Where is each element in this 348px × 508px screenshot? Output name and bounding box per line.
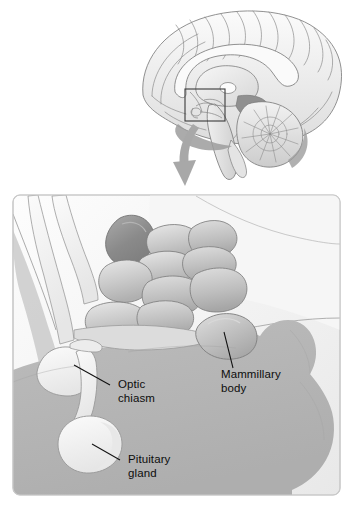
magnification-arrow-head (173, 160, 196, 186)
label-pituitary-gland-line1: Pituitary (128, 453, 171, 465)
label-pituitary-gland-line2: gland (128, 467, 157, 479)
label-mammillary-body-line1: Mammillary (221, 368, 281, 380)
label-mammillary-body-line2: body (221, 382, 246, 394)
midsagittal-brain-view (143, 11, 342, 186)
label-optic-chiasm-line1: Optic (118, 378, 145, 390)
figure-canvas: Optic chiasm Mammillary body Pituitary g… (0, 0, 348, 508)
hypothalamus-detail-panel (13, 195, 340, 495)
interthalamic-adhesion (220, 83, 236, 94)
label-optic-chiasm-line2: chiasm (118, 392, 155, 404)
nucleus-block-7 (190, 268, 247, 312)
anatomy-figure: Optic chiasm Mammillary body Pituitary g… (0, 0, 348, 508)
